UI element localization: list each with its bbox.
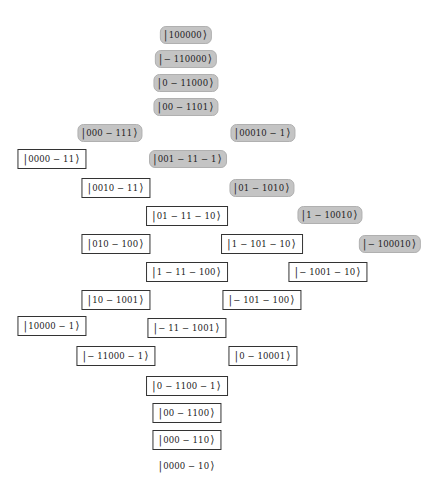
ket-open-bar: | [227,237,231,250]
ket-label: 00 − 1100 [163,408,209,418]
ket-node-white: |010 − 100⟩ [81,234,150,254]
ket-label: 0 − 11000 [162,78,208,88]
ket-node-white: |1 − 101 − 10⟩ [221,234,303,254]
ket-label: 1 − 10010 [306,210,352,220]
ket-label: − 100010 [368,239,411,249]
ket-open-bar: | [301,208,305,221]
ket-node-white: |1 − 11 − 100⟩ [146,262,228,282]
ket-node-white: |10000 − 1⟩ [17,316,86,336]
ket-node-white: |0 − 1100 − 1⟩ [146,376,228,396]
ket-open-bar: | [234,349,238,362]
ket-open-bar: | [294,265,298,278]
ket-open-bar: | [158,459,162,472]
ket-label: 0 − 1100 − 1 [157,381,216,391]
ket-label: − 1001 − 10 [299,267,355,277]
ket-close-angle: ⟩ [356,265,360,278]
ket-label: 000 − 111 [86,128,132,138]
ket-open-bar: | [23,319,27,332]
ket-open-bar: | [233,181,237,194]
ket-label: 0000 − 11 [28,154,74,164]
ket-node-gray: |100000⟩ [160,26,212,44]
ket-close-angle: ⟩ [209,100,213,113]
ket-close-angle: ⟩ [218,152,222,165]
ket-open-bar: | [87,293,91,306]
ket-open-bar: | [157,76,161,89]
ket-node-gray: |0 − 11000⟩ [153,74,218,92]
ket-close-angle: ⟩ [75,152,79,165]
ket-label: − 110000 [164,54,207,64]
ket-close-angle: ⟩ [203,28,207,41]
ket-node-gray: |001 − 11 − 1⟩ [149,150,227,168]
ket-open-bar: | [87,237,91,250]
ket-open-bar: | [234,126,238,139]
ket-close-angle: ⟩ [217,379,221,392]
ket-close-angle: ⟩ [210,433,214,446]
ket-label: 0010 − 11 [92,183,138,193]
ket-close-angle: ⟩ [290,293,294,306]
ket-open-bar: | [81,126,85,139]
ket-close-angle: ⟩ [292,237,296,250]
ket-label: 01 − 11 − 10 [157,211,216,221]
ket-label: 1 − 101 − 10 [232,239,291,249]
ket-open-bar: | [152,379,156,392]
ket-label: 00 − 1101 [162,102,208,112]
ket-close-angle: ⟩ [286,349,290,362]
ket-close-angle: ⟩ [139,181,143,194]
ket-open-bar: | [23,152,27,165]
ket-label: 001 − 11 − 1 [158,154,217,164]
ket-node-white: |10 − 1001⟩ [81,290,150,310]
ket-close-angle: ⟩ [217,265,221,278]
ket-open-bar: | [152,209,156,222]
ket-node-white: |− 101 − 100⟩ [222,290,301,310]
ket-close-angle: ⟩ [412,237,416,250]
ket-close-angle: ⟩ [215,321,219,334]
ket-label: − 101 − 100 [233,295,289,305]
ket-node-white: |0000 − 11⟩ [17,149,86,169]
ket-close-angle: ⟩ [353,208,357,221]
ket-label: 0000 − 10 [163,461,209,471]
ket-label: 01 − 1010 [238,183,284,193]
ket-node-white: |0010 − 11⟩ [81,178,150,198]
ket-close-angle: ⟩ [75,319,79,332]
ket-close-angle: ⟩ [210,459,214,472]
ket-label: 00010 − 1 [239,128,285,138]
ket-label: 10 − 1001 [92,295,138,305]
ket-close-angle: ⟩ [286,126,290,139]
ket-node-gray: |01 − 1010⟩ [229,179,294,197]
ket-open-bar: | [158,433,162,446]
ket-open-bar: | [157,100,161,113]
ket-node-plain: |0000 − 10⟩ [154,457,219,475]
ket-open-bar: | [363,237,367,250]
ket-open-bar: | [82,349,86,362]
ket-close-angle: ⟩ [208,52,212,65]
ket-node-white: |− 11000 − 1⟩ [76,346,155,366]
ket-open-bar: | [152,265,156,278]
ket-close-angle: ⟩ [285,181,289,194]
ket-label: 1 − 11 − 100 [157,267,216,277]
ket-close-angle: ⟩ [217,209,221,222]
ket-node-gray: |− 100010⟩ [359,235,421,253]
ket-label: − 11 − 1001 [158,323,214,333]
ket-label: − 11000 − 1 [87,351,143,361]
ket-label: 000 − 110 [163,435,209,445]
ket-node-gray: |1 − 10010⟩ [297,206,362,224]
ket-node-gray: |00 − 1101⟩ [153,98,218,116]
ket-close-angle: ⟩ [139,293,143,306]
ket-label: 10000 − 1 [28,321,74,331]
ket-label: 010 − 100 [92,239,138,249]
ket-close-angle: ⟩ [210,406,214,419]
ket-node-white: |000 − 110⟩ [152,430,221,450]
ket-open-bar: | [153,152,157,165]
ket-node-white: |− 11 − 1001⟩ [147,318,226,338]
ket-node-gray: |− 110000⟩ [155,50,217,68]
ket-node-gray: |000 − 111⟩ [77,124,142,142]
ket-node-gray: |00010 − 1⟩ [230,124,295,142]
ket-close-angle: ⟩ [139,237,143,250]
ket-node-white: |0 − 10001⟩ [228,346,297,366]
ket-node-white: |01 − 11 − 10⟩ [146,206,228,226]
ket-open-bar: | [158,406,162,419]
ket-open-bar: | [228,293,232,306]
ket-open-bar: | [159,52,163,65]
ket-close-angle: ⟩ [209,76,213,89]
ket-open-bar: | [87,181,91,194]
